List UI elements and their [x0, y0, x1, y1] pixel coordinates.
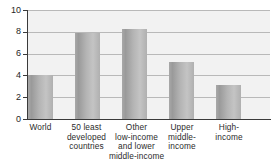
bar-chart: 10 8 6 4 2 0 World 50 least developed co…	[0, 0, 276, 161]
y-tick-0	[23, 119, 28, 120]
x-label-world-line-1: World	[16, 123, 65, 133]
gridline-6	[28, 54, 270, 55]
y-tick-label-2: 2	[0, 93, 21, 102]
bar-world	[28, 75, 53, 119]
bar-upper-middle-income	[169, 62, 194, 119]
plot-area	[28, 10, 270, 119]
x-label-upper-middle-income-line-3: income	[157, 142, 207, 152]
y-axis-line	[27, 10, 28, 120]
bar-other-low-and-lower-middle	[122, 29, 147, 120]
x-label-high-income: High- income	[204, 123, 254, 142]
y-tick-label-4: 4	[0, 71, 21, 80]
x-label-high-income-line-2: income	[204, 133, 254, 143]
x-label-upper-middle-income: Upper middle- income	[157, 123, 207, 152]
y-tick-6	[23, 54, 28, 55]
bar-50-least-developed	[75, 33, 100, 119]
y-tick-8	[23, 32, 28, 33]
x-label-world: World	[16, 123, 65, 133]
y-tick-2	[23, 97, 28, 98]
y-tick-label-10: 10	[0, 6, 21, 15]
y-tick-4	[23, 75, 28, 76]
y-tick-label-6: 6	[0, 49, 21, 58]
gridline-10	[28, 10, 270, 11]
x-label-other-low-and-lower-middle-line-4: middle-income	[104, 152, 169, 161]
y-tick-10	[23, 10, 28, 11]
y-tick-label-8: 8	[0, 27, 21, 36]
x-axis-line	[27, 119, 271, 120]
bar-high-income	[216, 85, 241, 119]
gridline-4	[28, 75, 270, 76]
gridline-8	[28, 32, 270, 33]
